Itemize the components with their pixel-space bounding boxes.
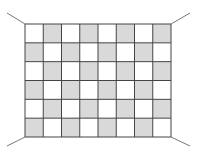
grid-cell-shaded: [116, 99, 134, 118]
grid-cell-white: [98, 24, 116, 43]
grid-cell-shaded: [43, 62, 61, 81]
grid-cell-white: [80, 118, 98, 137]
grid-cell-white: [43, 81, 61, 100]
grid-cell-shaded: [43, 24, 61, 43]
grid-cell-shaded: [153, 62, 171, 81]
grid-cell-white: [135, 24, 153, 43]
grid-cell-shaded: [135, 43, 153, 62]
corner-line-bottom-right: [171, 137, 190, 146]
checkerboard-diagram: [0, 0, 198, 149]
grid-cell-white: [25, 24, 43, 43]
grid-cell-white: [135, 62, 153, 81]
grid-cell-white: [153, 81, 171, 100]
grid-cell-white: [153, 118, 171, 137]
grid-cell-shaded: [43, 99, 61, 118]
grid-cell-white: [80, 81, 98, 100]
grid-cell-shaded: [80, 62, 98, 81]
grid-cell-white: [43, 118, 61, 137]
grid-cell-white: [98, 99, 116, 118]
grid-cell-shaded: [80, 99, 98, 118]
grid-cell-white: [116, 118, 134, 137]
grid-cell-white: [62, 62, 80, 81]
grid-cell-white: [135, 99, 153, 118]
grid-cell-shaded: [80, 24, 98, 43]
grid-cell-shaded: [98, 118, 116, 137]
grid-cell-shaded: [25, 43, 43, 62]
corner-line-bottom-left: [7, 137, 25, 146]
grid-cell-shaded: [25, 118, 43, 137]
grid-cell-white: [116, 81, 134, 100]
grid-cell-white: [25, 62, 43, 81]
grid-cell-white: [153, 43, 171, 62]
grid-cell-shaded: [153, 24, 171, 43]
grid-cell-shaded: [98, 81, 116, 100]
grid-cell-shaded: [116, 62, 134, 81]
corner-line-top-left: [7, 13, 25, 24]
corner-line-top-right: [171, 13, 190, 24]
grid-cell-shaded: [62, 81, 80, 100]
grid-cell-shaded: [135, 81, 153, 100]
grid-cell-shaded: [135, 118, 153, 137]
grid-cell-white: [80, 43, 98, 62]
grid-cell-white: [116, 43, 134, 62]
grid-cell-white: [98, 62, 116, 81]
grid-cell-shaded: [116, 24, 134, 43]
grid-cell-shaded: [153, 99, 171, 118]
grid-cell-white: [62, 24, 80, 43]
grid-cell-shaded: [25, 81, 43, 100]
grid-cell-white: [62, 99, 80, 118]
grid-cell-shaded: [98, 43, 116, 62]
grid-cell-shaded: [62, 118, 80, 137]
grid-cell-white: [43, 43, 61, 62]
grid-cell-white: [25, 99, 43, 118]
grid-cell-shaded: [62, 43, 80, 62]
